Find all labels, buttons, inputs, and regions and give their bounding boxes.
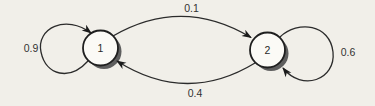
state-diagram-canvas: 1 2 0.9 0.1 0.4 0.6 (0, 0, 375, 106)
state-1-label: 1 (98, 42, 104, 54)
edge-state-1-to-state-2 (113, 16, 251, 37)
probability-label-1-to-1: 0.9 (24, 42, 39, 54)
probability-label-2-to-2: 0.6 (341, 46, 356, 58)
state-2-label: 2 (265, 44, 271, 56)
markov-chain-diagram: 1 2 0.9 0.1 0.4 0.6 (0, 0, 375, 106)
probability-label-1-to-2: 0.1 (184, 2, 199, 14)
edge-state-2-to-state-1 (117, 61, 255, 84)
probability-label-2-to-1: 0.4 (188, 87, 203, 99)
